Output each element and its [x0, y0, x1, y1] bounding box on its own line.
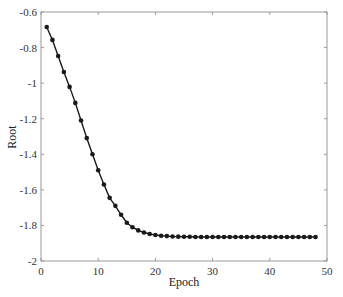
- data-point: [233, 235, 238, 240]
- data-point: [147, 232, 152, 237]
- data-point: [176, 234, 181, 239]
- data-point: [136, 228, 141, 233]
- data-point: [56, 54, 61, 59]
- data-point: [170, 234, 175, 239]
- data-point: [165, 234, 170, 239]
- y-tick-labels: -0.6-0.8-1-1.2-1.4-1.6-1.8-2: [20, 6, 38, 267]
- data-point: [222, 235, 227, 240]
- data-point: [159, 233, 164, 238]
- data-point: [96, 168, 101, 173]
- data-point: [130, 225, 135, 230]
- line-chart: 01020304050 -0.6-0.8-1-1.2-1.4-1.6-1.8-2…: [0, 0, 343, 297]
- data-point: [84, 136, 89, 141]
- y-tick-label: -1.8: [20, 219, 38, 231]
- data-point: [239, 235, 244, 240]
- data-point: [193, 235, 198, 240]
- y-tick-label: -1.4: [20, 148, 38, 160]
- data-point: [256, 235, 261, 240]
- y-tick-label: -0.8: [20, 42, 38, 54]
- x-tick-label: 20: [150, 265, 162, 277]
- data-point: [62, 70, 67, 75]
- x-tick-label: 50: [322, 265, 334, 277]
- data-point: [250, 235, 255, 240]
- data-point: [67, 85, 72, 90]
- y-tick-label: -1.6: [20, 184, 38, 196]
- data-point: [50, 38, 55, 43]
- y-tick-label: -1.2: [20, 113, 37, 125]
- x-tick-label: 0: [38, 265, 44, 277]
- data-point: [216, 235, 221, 240]
- data-point: [245, 235, 250, 240]
- data-point: [119, 212, 124, 217]
- data-point: [113, 204, 118, 209]
- data-point: [273, 235, 278, 240]
- data-point: [308, 235, 313, 240]
- data-point: [107, 196, 112, 201]
- data-point: [205, 235, 210, 240]
- data-point: [102, 182, 107, 187]
- x-tick-label: 10: [93, 265, 105, 277]
- data-point: [153, 233, 158, 238]
- data-point: [262, 235, 267, 240]
- plot-frame: [41, 12, 327, 261]
- x-tick-label: 30: [207, 265, 219, 277]
- data-point: [79, 118, 84, 123]
- data-point: [182, 235, 187, 240]
- data-point: [279, 235, 284, 240]
- y-axis-label: Root: [5, 125, 19, 149]
- data-point: [313, 235, 318, 240]
- data-point: [125, 220, 130, 225]
- data-point: [73, 101, 78, 106]
- data-point: [44, 25, 49, 30]
- data-point: [90, 152, 95, 157]
- y-tick-label: -2: [28, 255, 37, 267]
- x-axis-label: Epoch: [169, 275, 200, 289]
- y-tick-label: -0.6: [20, 6, 38, 18]
- y-tick-label: -1: [28, 77, 37, 89]
- data-point: [302, 235, 307, 240]
- data-point: [290, 235, 295, 240]
- data-point: [199, 235, 204, 240]
- data-point: [142, 230, 147, 235]
- data-point: [210, 235, 215, 240]
- data-point: [187, 235, 192, 240]
- data-point: [227, 235, 232, 240]
- data-point: [268, 235, 273, 240]
- data-point: [285, 235, 290, 240]
- x-tick-label: 40: [264, 265, 276, 277]
- data-point: [296, 235, 301, 240]
